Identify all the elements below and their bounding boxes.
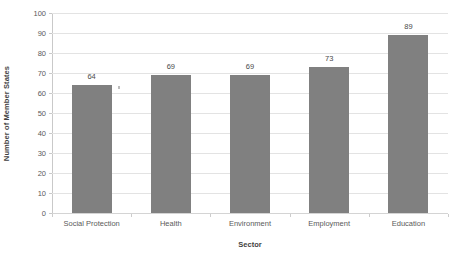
y-axis-tick-label: 80	[16, 49, 46, 58]
bar-value-label: 64	[67, 72, 117, 81]
bar[interactable]	[388, 35, 428, 213]
gridline	[52, 213, 448, 214]
y-axis-tick-mark	[49, 173, 52, 174]
y-axis-tick-label: 30	[16, 149, 46, 158]
bar-chart: Number of Member States 0102030405060708…	[0, 0, 458, 266]
x-axis-title: Sector	[52, 240, 448, 249]
bar-value-label: 73	[304, 54, 354, 63]
y-axis-tick-mark	[49, 133, 52, 134]
bar[interactable]	[72, 85, 112, 213]
y-axis-title: Number of Member States	[0, 0, 14, 226]
y-axis-tick-label: 100	[16, 9, 46, 18]
y-axis-title-text: Number of Member States	[3, 65, 12, 160]
gridline	[52, 13, 448, 14]
y-axis-tick-label: 90	[16, 29, 46, 38]
y-axis-tick-label: 10	[16, 189, 46, 198]
bar[interactable]	[230, 75, 270, 213]
x-axis-tick-mark	[369, 214, 370, 217]
y-axis-tick-mark	[49, 33, 52, 34]
y-axis-tick-label: 0	[16, 209, 46, 218]
y-axis-tick-label: 70	[16, 69, 46, 78]
y-axis-tick-mark	[49, 93, 52, 94]
bar[interactable]	[309, 67, 349, 213]
y-axis-tick-mark	[49, 73, 52, 74]
x-axis-category-label: Education	[348, 219, 458, 229]
y-axis-tick-label: 50	[16, 109, 46, 118]
image-artifact-speck	[118, 86, 120, 89]
x-axis-tick-mark	[210, 214, 211, 217]
bar-value-label: 89	[383, 22, 433, 31]
y-axis-tick-label: 20	[16, 169, 46, 178]
y-axis-tick-mark	[49, 113, 52, 114]
x-axis-tick-mark	[52, 214, 53, 217]
bar-value-label: 69	[225, 62, 275, 71]
y-axis-tick-label: 60	[16, 89, 46, 98]
x-axis-tick-mark	[448, 214, 449, 217]
y-axis-tick-mark	[49, 13, 52, 14]
bar-value-label: 69	[146, 62, 196, 71]
gridline	[52, 33, 448, 34]
plot-area: 6469697389	[52, 13, 448, 213]
x-axis-tick-mark	[290, 214, 291, 217]
y-axis-tick-label: 40	[16, 129, 46, 138]
y-axis-tick-mark	[49, 153, 52, 154]
y-axis-tick-mark	[49, 53, 52, 54]
y-axis-tick-labels: 0102030405060708090100	[16, 8, 46, 214]
bar[interactable]	[151, 75, 191, 213]
y-axis-tick-mark	[49, 193, 52, 194]
x-axis-tick-mark	[131, 214, 132, 217]
